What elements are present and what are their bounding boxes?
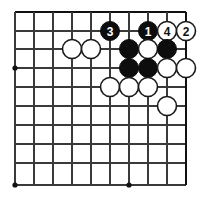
stone-white-stone-e: [177, 59, 196, 78]
stone-black-stone-a: [120, 40, 139, 59]
goban-canvas: 3142: [0, 0, 201, 203]
white-stone-disc: [101, 78, 120, 97]
stone-black-stone-d: [139, 59, 158, 78]
stone-white-stone-f: [101, 78, 120, 97]
white-stone-disc: [139, 40, 158, 59]
white-stone-disc: [158, 59, 177, 78]
move-number-label-2: 2: [183, 25, 190, 39]
black-stone-disc: [139, 59, 158, 78]
white-stone-disc: [177, 59, 196, 78]
white-stone-disc: [63, 40, 82, 59]
star-point-1: [12, 182, 17, 187]
black-stone-disc: [158, 40, 177, 59]
move-number-label-1: 1: [145, 25, 152, 39]
black-stone-disc: [120, 59, 139, 78]
stone-black-move-3: 3: [101, 22, 120, 41]
star-point-2: [126, 182, 131, 187]
black-stone-disc: [120, 40, 139, 59]
stone-white-move-4: 4: [158, 22, 177, 41]
stone-white-move-2: 2: [177, 22, 196, 41]
stone-white-stone-d: [158, 59, 177, 78]
move-number-label-4: 4: [164, 25, 171, 39]
stone-white-stone-i: [158, 97, 177, 116]
stone-white-stone-h: [139, 78, 158, 97]
stone-white-stone-g: [120, 78, 139, 97]
white-stone-disc: [120, 78, 139, 97]
stone-black-move-1: 1: [139, 22, 158, 41]
white-stone-disc: [139, 78, 158, 97]
white-stone-disc: [82, 40, 101, 59]
star-point-0: [12, 65, 17, 70]
white-stone-disc: [158, 97, 177, 116]
stone-white-stone-c: [82, 40, 101, 59]
go-board-diagram: 3142: [0, 0, 201, 203]
stone-black-stone-b: [158, 40, 177, 59]
stone-white-stone-a: [139, 40, 158, 59]
move-number-label-3: 3: [107, 25, 114, 39]
stone-black-stone-c: [120, 59, 139, 78]
stone-white-stone-b: [63, 40, 82, 59]
